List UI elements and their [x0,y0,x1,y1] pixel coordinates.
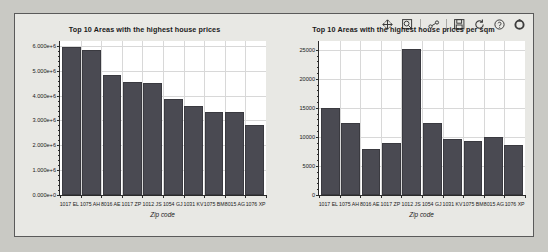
x-tick-mark [245,195,246,198]
bar[interactable] [123,82,142,195]
x-tick-mark [463,195,464,198]
bar-slot [61,41,81,195]
bar[interactable] [245,125,264,195]
x-tick-mark [319,195,320,198]
bar[interactable] [62,47,81,195]
bar[interactable] [225,112,244,195]
bar[interactable] [382,143,401,195]
bar[interactable] [443,139,462,195]
bar[interactable] [402,49,421,195]
x-tick-label: 1075 BM [204,201,225,207]
x-tick-mark [225,195,226,198]
screen-background: Top 10 Areas with the highest house pric… [0,0,548,252]
x-tick-mark [525,195,526,198]
x-tick-label: 1017 ZP [121,201,142,207]
y-tick-label: 25000 [299,47,315,53]
bar[interactable] [341,123,360,195]
x-tick-mark [184,195,185,198]
y-tick-label: 0.000e+0 [33,192,57,198]
x-tick-label: 1017 EL [59,201,80,207]
x-tick-label: 1076 XP [504,201,525,207]
chart-title: Top 10 Areas with the highest house pric… [15,25,274,34]
bar-slot [483,41,503,195]
x-tick-mark [443,195,444,198]
x-tick-label: 8015 AG [484,201,505,207]
x-tick-label: 8016 AE [100,201,121,207]
bar[interactable] [184,106,203,195]
y-tick-label: 1.000e+6 [33,167,57,173]
bar-slot [143,41,163,195]
x-tick-mark [266,195,267,198]
plot-area-wrapper: House prices per sqm 0500010000150002000… [318,41,525,196]
x-tick-mark [504,195,505,198]
x-tick-label: 1075 AH [80,201,101,207]
bar-slot [163,41,183,195]
x-tick-label: 1017 ZP [380,201,401,207]
y-tick-label: 5.000e+6 [33,68,57,74]
x-tick-label: 1031 KV [442,201,463,207]
x-tick-mark [204,195,205,198]
x-tick-label: 1076 XP [245,201,266,207]
bar-slot [442,41,462,195]
y-tick-label: 5000 [303,163,315,169]
x-tick-mark [381,195,382,198]
bar[interactable] [484,137,503,195]
x-tick-label: 1017 EL [318,201,339,207]
bar[interactable] [82,50,101,195]
y-tick-label: 4.000e+6 [33,93,57,99]
bar-slot [381,41,401,195]
bar-slot [224,41,244,195]
bar[interactable] [362,149,381,195]
x-tick-mark [163,195,164,198]
plot-area[interactable]: 0.000e+01.000e+62.000e+63.000e+64.000e+6… [59,41,266,196]
x-tick-label: 1054 GJ [421,201,442,207]
x-tick-mark [360,195,361,198]
x-tick-label: 1031 KV [183,201,204,207]
y-tick-label: 3.000e+6 [33,117,57,123]
x-tick-mark [422,195,423,198]
bar-series [60,41,266,195]
bar-slot [504,41,524,195]
bar-slot [320,41,340,195]
x-tick-label: 1012 JS [401,201,422,207]
x-tick-label: 8016 AE [359,201,380,207]
bar[interactable] [321,108,340,195]
y-tick-label: 10000 [299,134,315,140]
x-tick-mark [122,195,123,198]
bar-slot [402,41,422,195]
bar-slot [204,41,224,195]
bar[interactable] [464,141,483,195]
chart-title: Top 10 Areas with the highest house pric… [274,25,533,34]
bar-slot [81,41,101,195]
bar-slot [122,41,142,195]
x-tick-mark [142,195,143,198]
bar[interactable] [504,145,523,195]
bar[interactable] [205,112,224,195]
bar-slot [102,41,122,195]
x-axis-tick-labels: 1017 EL1075 AH8016 AE1017 ZP1012 JS1054 … [318,201,525,207]
bar-slot [340,41,360,195]
plot-area[interactable]: 0500010000150002000025000 [318,41,525,196]
x-tick-label: 1054 GJ [162,201,183,207]
bar-slot [463,41,483,195]
chart-panel-house-prices-per-sqm: Top 10 Areas with the highest house pric… [274,14,533,236]
bar-slot [361,41,381,195]
y-tick-label: 6.000e+6 [33,43,57,49]
x-tick-label: 1075 BM [463,201,484,207]
bar[interactable] [143,83,162,195]
bar-series [319,41,525,195]
x-tick-label: 1012 JS [142,201,163,207]
bar-slot [183,41,203,195]
x-tick-label: 8015 AG [225,201,246,207]
x-axis-tick-labels: 1017 EL1075 AH8016 AE1017 ZP1012 JS1054 … [59,201,266,207]
x-tick-mark [81,195,82,198]
bar[interactable] [164,99,183,195]
charts-container: Top 10 Areas with the highest house pric… [15,14,533,236]
y-tick-label: 0 [312,192,315,198]
y-tick-label: 20000 [299,76,315,82]
bar[interactable] [423,123,442,195]
bar-slot [422,41,442,195]
bar[interactable] [103,75,122,195]
x-tick-mark [401,195,402,198]
y-tick-label: 2.000e+6 [33,142,57,148]
